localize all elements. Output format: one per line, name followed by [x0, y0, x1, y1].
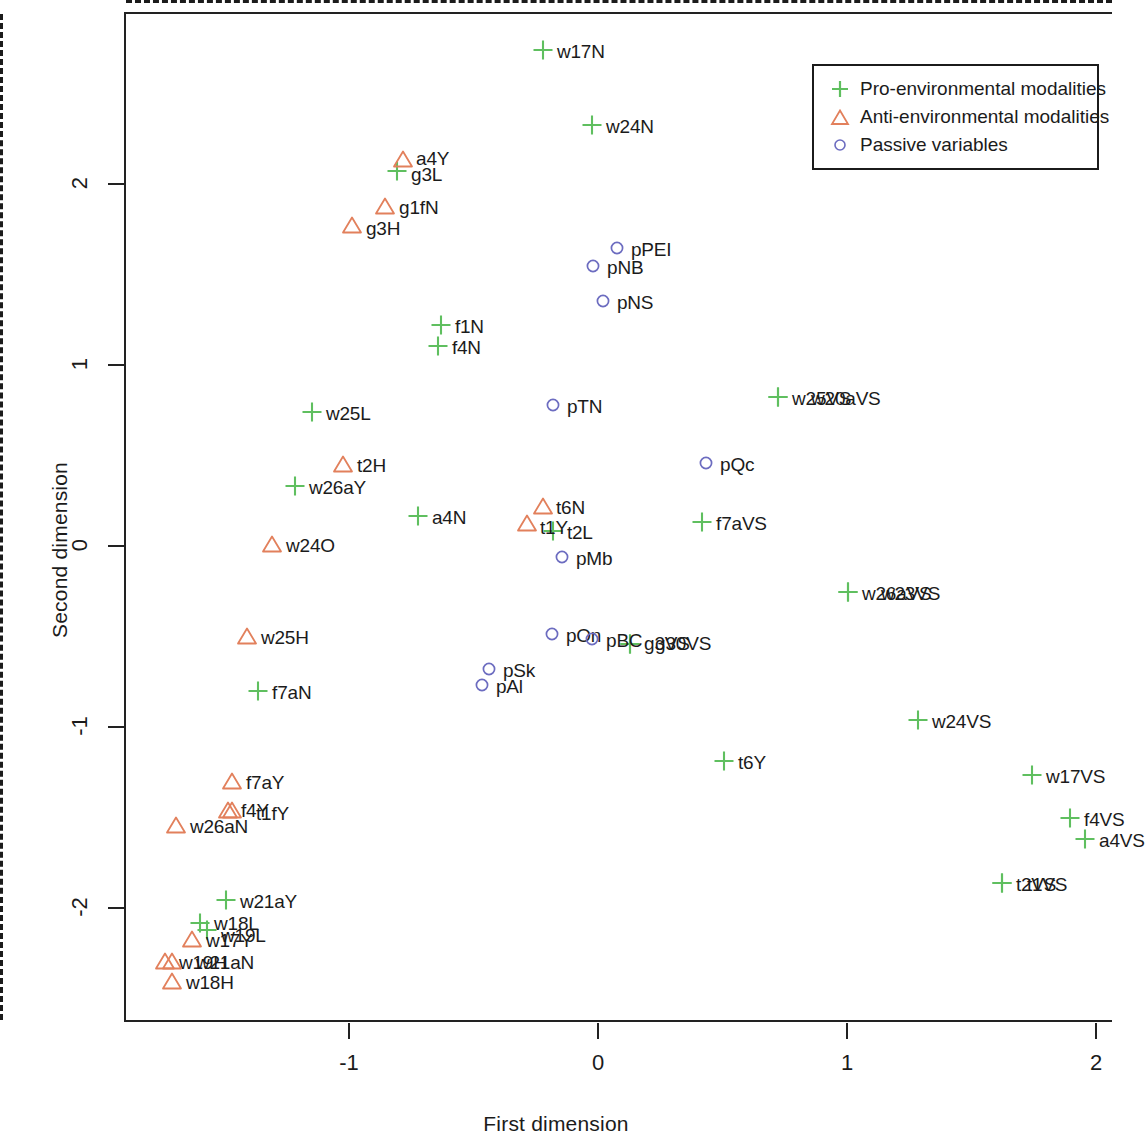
x-tick-mark [348, 1023, 350, 1039]
x-tick-label: 0 [592, 1050, 604, 1076]
data-point-label: pAl [496, 676, 523, 698]
data-point-label: w17N [557, 41, 605, 63]
y-tick-label: -1 [67, 712, 93, 740]
data-point-label: f4N [452, 337, 481, 359]
data-point-label: w20aVS [811, 388, 881, 410]
data-point-label: w23VS [881, 583, 940, 605]
data-point-label: w26aY [309, 477, 366, 499]
y-tick-mark [108, 364, 124, 366]
data-point-label: pNB [607, 257, 643, 279]
data-point-label: pQc [720, 454, 754, 476]
legend-entry: Pro-environmental modalities [826, 75, 1087, 103]
data-point-label: w24N [606, 116, 654, 138]
data-point-label: pOn [566, 625, 601, 647]
triangle-marker-icon [826, 104, 854, 130]
data-point-label: f1N [455, 316, 484, 338]
data-point-label: w17Y [206, 930, 253, 952]
y-tick-mark [108, 545, 124, 547]
data-point-label: w25H [261, 627, 309, 649]
circle-marker-icon [826, 132, 854, 158]
y-tick-label: 1 [67, 350, 93, 378]
legend-entry: Anti-environmental modalities [826, 103, 1087, 131]
y-tick-label: -2 [67, 893, 93, 921]
legend: Pro-environmental modalities Anti-enviro… [812, 64, 1099, 170]
data-point-label: t2H [357, 455, 386, 477]
data-point-label: pNS [617, 292, 653, 314]
y-tick-mark [108, 726, 124, 728]
data-point-label: f7aVS [716, 513, 767, 535]
y-tick-mark [108, 183, 124, 185]
x-tick-mark [846, 1023, 848, 1039]
x-tick-label: -1 [339, 1050, 359, 1076]
y-axis-title: Second dimension [48, 400, 72, 700]
data-point-label: t1fY [256, 803, 289, 825]
data-point-label: w26aN [190, 816, 248, 838]
data-point-label: t6N [556, 497, 585, 519]
data-point-label: a4N [432, 507, 466, 529]
legend-label-pro-environmental: Pro-environmental modalities [854, 78, 1106, 100]
data-point-label: f7aN [272, 682, 311, 704]
data-point-label: g30VS [655, 633, 711, 655]
data-point-label: f4VS [1084, 809, 1124, 831]
y-tick-mark [108, 907, 124, 909]
data-point-label: pMb [576, 548, 612, 570]
data-point-label: w17VS [1046, 766, 1105, 788]
legend-label-anti-environmental: Anti-environmental modalities [854, 106, 1109, 128]
data-point-label: w21aY [240, 891, 297, 913]
legend-label-passive-variables: Passive variables [854, 134, 1008, 156]
x-axis-title: First dimension [0, 1112, 1112, 1136]
data-point-label: pTN [567, 396, 602, 418]
data-point-label: w18H [186, 972, 234, 994]
data-point-label: pBC [606, 630, 642, 652]
data-point-label: t1Y [540, 517, 568, 539]
data-point-label: g3H [366, 218, 400, 240]
data-point-label: w21aN [196, 952, 254, 974]
data-point-label: t1VS [1027, 874, 1067, 896]
x-tick-mark [1095, 1023, 1097, 1039]
x-tick-mark [597, 1023, 599, 1039]
data-point-label: t6Y [738, 752, 766, 774]
data-point-label: w24O [286, 535, 335, 557]
data-point-label: a4VS [1099, 830, 1145, 852]
legend-entry: Passive variables [826, 131, 1087, 159]
plus-marker-icon [826, 76, 854, 102]
x-tick-label: 1 [841, 1050, 853, 1076]
data-point-label: g1fN [399, 197, 438, 219]
data-point-label: f7aY [246, 772, 284, 794]
data-point-label: w25L [326, 403, 371, 425]
x-tick-label: 2 [1090, 1050, 1102, 1076]
data-point-label: a4Y [416, 148, 449, 170]
y-tick-label: 2 [67, 169, 93, 197]
horizontal-zero-reference-line [126, 0, 1112, 3]
data-point-label: w24VS [932, 711, 991, 733]
data-point-label: t2L [567, 522, 593, 544]
vertical-zero-reference-line [0, 14, 3, 1020]
